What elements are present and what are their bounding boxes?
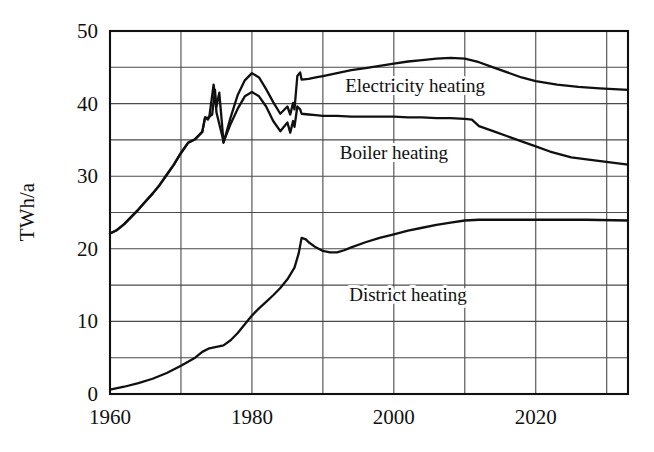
y-axis-title: TWh/a <box>15 182 39 241</box>
y-tick-label: 10 <box>77 309 98 333</box>
y-tick-label: 20 <box>77 237 98 261</box>
y-tick-label: 0 <box>88 382 99 406</box>
x-tick-label: 1960 <box>89 405 131 429</box>
x-tick-label: 2020 <box>515 405 557 429</box>
series-label-electricity-heating: Electricity heating <box>345 75 485 96</box>
line-chart: 1960198020002020 01020304050 Electricity… <box>0 0 654 452</box>
series-label-district-heating: District heating <box>349 284 467 305</box>
x-tick-label: 1980 <box>231 405 273 429</box>
y-axis-label-text: TWh/a <box>15 182 39 241</box>
y-tick-label: 40 <box>77 92 98 116</box>
y-tick-label: 50 <box>77 19 98 43</box>
series-label-boiler-heating: Boiler heating <box>340 142 449 163</box>
chart-figure: 1960198020002020 01020304050 Electricity… <box>0 0 654 452</box>
x-tick-label: 2000 <box>373 405 415 429</box>
y-tick-label: 30 <box>77 164 98 188</box>
